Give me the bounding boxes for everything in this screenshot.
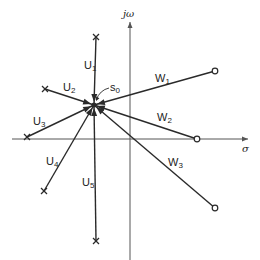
u2-sub: 2	[71, 86, 75, 95]
real-axis-label: σ	[242, 144, 249, 154]
w2-main: W	[157, 111, 167, 123]
u3-main: U	[33, 115, 41, 127]
branch-label-u4: U4	[46, 156, 58, 169]
u2-main: U	[63, 81, 71, 93]
u4-main: U	[46, 155, 54, 167]
imag-axis-arrow-icon	[128, 22, 133, 28]
u3-sub: 3	[41, 120, 45, 129]
convergence-point-dot	[92, 103, 97, 108]
w3-main: W	[168, 156, 178, 168]
branch-label-w3: W3	[168, 157, 183, 170]
real-axis-arrow-icon	[242, 137, 248, 142]
root-locus-diagram: jω σ s0 U1 U2 U3 U4 U5 W1 W2 W3	[0, 0, 260, 260]
diagram-canvas	[0, 0, 260, 260]
branch-label-u3: U3	[33, 116, 45, 129]
branch-label-u5: U5	[82, 177, 94, 190]
w1-sub: 1	[165, 77, 169, 86]
u4-sub: 4	[54, 160, 58, 169]
w1-main: W	[155, 72, 165, 84]
u1-sub: 1	[92, 64, 96, 73]
u5-sub: 5	[90, 181, 94, 190]
branch-u5	[94, 105, 96, 241]
zero-w2-o-icon	[194, 136, 200, 142]
branch-u2-arrow-icon	[83, 99, 92, 105]
branch-w2	[94, 105, 197, 139]
u5-main: U	[82, 176, 90, 188]
branch-label-u1: U1	[84, 60, 96, 73]
u1-main: U	[84, 59, 92, 71]
zero-w3-o-icon	[212, 205, 218, 211]
branch-w1-arrow-icon	[97, 99, 106, 105]
branch-label-w1: W1	[155, 73, 170, 86]
branch-label-u2: U2	[63, 82, 75, 95]
convergence-point-label: s0	[110, 82, 120, 95]
w3-sub: 3	[178, 161, 182, 170]
branch-label-w2: W2	[157, 112, 172, 125]
s0-sub: 0	[116, 86, 120, 95]
branch-w3	[94, 105, 215, 208]
w2-sub: 2	[167, 116, 171, 125]
zero-w1-o-icon	[212, 68, 218, 74]
imag-axis-label: jω	[123, 9, 134, 19]
